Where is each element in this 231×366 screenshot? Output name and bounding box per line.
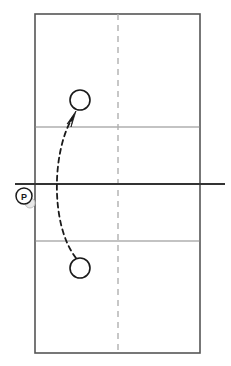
court-diagram: P [0,0,231,366]
player-marker-passer-label: P [21,192,27,202]
player-marker-target [70,90,90,110]
court-diagram-canvas: P [0,0,231,366]
player-marker-origin [70,258,90,278]
